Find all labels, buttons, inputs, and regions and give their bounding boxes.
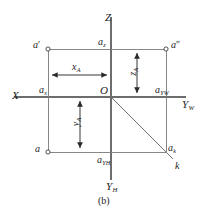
point-label-a-side: a″ <box>171 40 180 51</box>
figure-container: Z X YW YH O a′ a″ a az ax aYW aYH <box>0 0 202 211</box>
dimension-label-x: xA <box>72 62 80 72</box>
point-marker-a-top <box>46 150 50 154</box>
point-label-k: k <box>175 161 179 171</box>
bisector-line-ok <box>111 97 173 159</box>
dimension-label-z: zA <box>128 64 138 80</box>
point-label-a-yw: aYW <box>155 85 169 95</box>
axis-label-x: X <box>12 90 19 101</box>
origin-label: O <box>100 85 108 96</box>
projection-diagram <box>0 0 202 211</box>
axis-label-z: Z <box>105 12 111 23</box>
axis-label-yh: YH <box>106 181 117 192</box>
figure-caption: (b) <box>98 195 110 206</box>
point-label-a-yh: aYH <box>97 155 110 165</box>
point-label-a-k: ak <box>168 143 176 153</box>
axis-label-yw: YW <box>182 99 194 110</box>
point-marker-a-front <box>46 47 50 51</box>
dimension-label-y: yA <box>71 114 81 130</box>
point-label-a-front: a′ <box>33 40 40 51</box>
point-label-a-z: az <box>98 37 105 47</box>
point-label-a-top: a <box>35 144 40 154</box>
point-label-a-x: ax <box>39 85 47 95</box>
point-marker-a-side <box>164 47 168 51</box>
